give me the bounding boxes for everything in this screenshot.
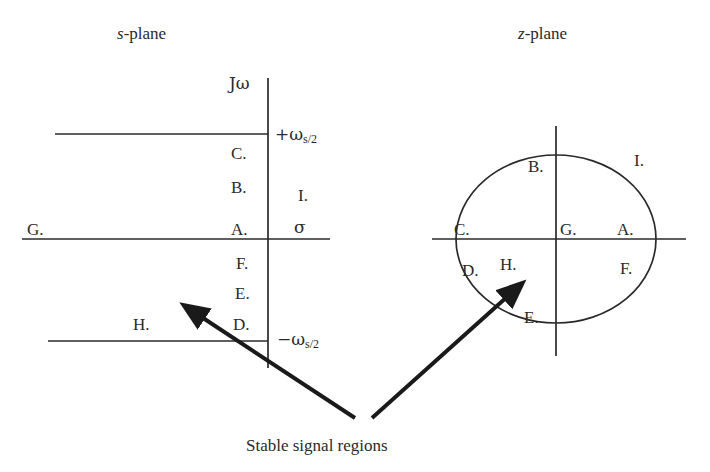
z-plane-region-I: I. [634,152,644,169]
z-plane-region-F: F. [620,260,632,277]
z-plane-region-A: A. [617,221,634,238]
s-plane-region-G: G. [27,221,44,238]
z-plane-title: z-plane [518,25,567,42]
s-plane-region-F: F. [236,255,248,272]
z-plane-region-C: C. [454,221,470,238]
s-plane-region-B: B. [231,179,247,196]
s-plane-title: s-plane [117,25,166,42]
z-plane-unit-circle [456,155,656,323]
arrow-to-z-plane [372,296,508,418]
lower-frequency-prefix: −ω [277,329,305,349]
s-plane-jomega-label: Jω [229,75,250,92]
s-plane-region-H: H. [133,316,150,333]
diagram-vector-layer [0,0,710,472]
s-plane-region-I: I. [298,187,308,204]
s-plane-title-italic: s [117,24,124,43]
s-plane-region-C: C. [231,145,247,162]
upper-frequency-prefix: +ω [275,124,303,144]
z-plane-region-H: H. [500,256,517,273]
upper-frequency-subscript: s/2 [303,132,317,146]
z-plane-axes [432,126,686,356]
z-plane-region-E: E. [524,309,539,326]
s-plane-lower-frequency-label: −ωs/2 [277,331,319,348]
s-plane-region-D: D. [233,316,250,333]
z-plane-region-B: B. [528,158,544,175]
lower-frequency-subscript: s/2 [305,337,319,351]
figure-stable-signal-regions: s-plane Jω +ωs/2 −ωs/2 σ C. B. A. F. E. … [0,0,710,472]
s-plane-region-E: E. [235,285,250,302]
z-plane-title-rest: -plane [525,24,567,43]
s-plane-title-rest: -plane [124,24,166,43]
z-plane-region-D: D. [462,262,479,279]
s-plane-upper-frequency-label: +ωs/2 [275,126,317,143]
s-plane-region-A: A. [231,221,248,238]
s-plane-sigma-label: σ [294,219,306,236]
z-plane-region-G: G. [560,221,577,238]
s-plane-axes [22,78,330,368]
z-plane-title-italic: z [518,24,525,43]
figure-caption: Stable signal regions [246,437,388,454]
